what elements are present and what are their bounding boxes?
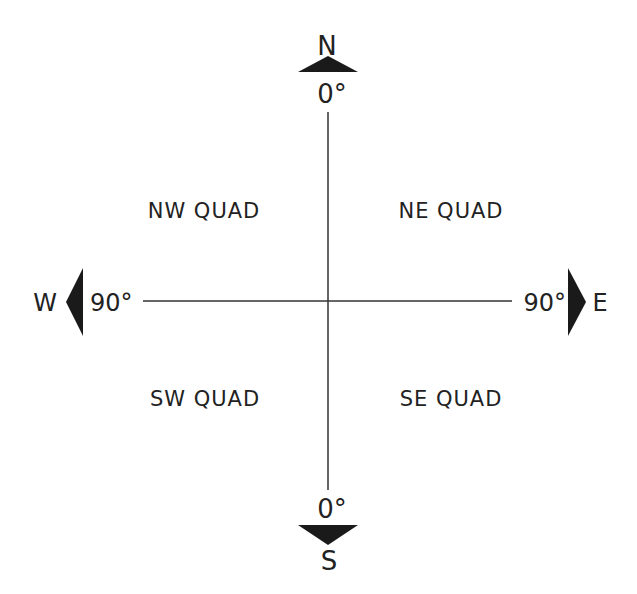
east-arrow-icon <box>568 268 586 336</box>
compass-diagram: N 0° 0° S W 90° 90° E NW QUAD NE QUAD SW… <box>0 0 637 594</box>
quadrant-sw-label: SW QUAD <box>150 387 260 411</box>
west-arrow-icon <box>66 268 83 336</box>
south-letter: S <box>321 546 338 576</box>
south-arrow-icon <box>298 525 358 545</box>
west-letter: W <box>33 289 57 317</box>
quadrant-se-label: SE QUAD <box>400 387 503 411</box>
north-degree: 0° <box>317 79 347 109</box>
north-letter: N <box>317 31 336 61</box>
east-degree: 90° <box>523 289 566 317</box>
north-arrow-icon <box>298 56 358 72</box>
quadrant-ne-label: NE QUAD <box>398 199 503 223</box>
west-degree: 90° <box>90 289 133 317</box>
east-letter: E <box>592 289 607 317</box>
south-degree: 0° <box>317 494 347 524</box>
quadrant-nw-label: NW QUAD <box>148 199 261 223</box>
